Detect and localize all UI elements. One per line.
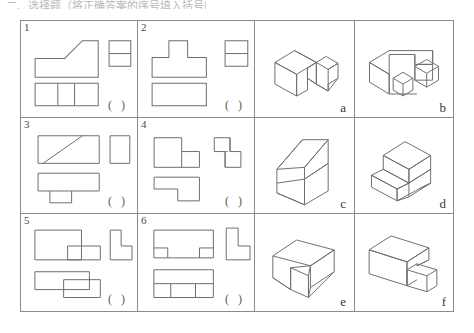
pictorial-cell-f[interactable]: f bbox=[355, 214, 454, 311]
projection-cell-5[interactable]: 5 ( ) bbox=[21, 214, 138, 311]
answer-blank-1[interactable]: ( ) bbox=[108, 98, 128, 113]
pictorial-cell-b[interactable]: b bbox=[355, 21, 454, 118]
pictorial-letter-a: a bbox=[340, 100, 346, 116]
projection-cell-4[interactable]: 4 ( ) bbox=[138, 118, 255, 215]
answer-blank-6[interactable]: ( ) bbox=[225, 292, 245, 307]
answer-blank-3[interactable]: ( ) bbox=[108, 194, 128, 209]
pictorial-letter-d: d bbox=[440, 196, 447, 212]
pictorial-cell-a[interactable]: a bbox=[255, 21, 355, 118]
top-instruction-text: 二、选择题（将正确答案的序号填入括号内） bbox=[6, 0, 206, 9]
exercise-table: 1 ( ) 2 ( ) bbox=[20, 20, 454, 312]
pictorial-cell-d[interactable]: d bbox=[355, 118, 454, 215]
answer-blank-4[interactable]: ( ) bbox=[225, 194, 245, 209]
isometric-object-a bbox=[255, 21, 354, 117]
pictorial-letter-e: e bbox=[340, 294, 346, 310]
projection-cell-1[interactable]: 1 ( ) bbox=[21, 21, 138, 118]
isometric-object-e bbox=[255, 214, 354, 311]
pictorial-letter-b: b bbox=[440, 100, 447, 116]
answer-blank-5[interactable]: ( ) bbox=[108, 292, 128, 307]
pictorial-letter-c: c bbox=[340, 196, 346, 212]
projection-cell-2[interactable]: 2 ( ) bbox=[138, 21, 255, 118]
isometric-object-c bbox=[255, 118, 354, 214]
pictorial-cell-c[interactable]: c bbox=[255, 118, 355, 215]
projection-cell-6[interactable]: 6 ( ) bbox=[138, 214, 255, 311]
pictorial-letter-f: f bbox=[442, 294, 446, 310]
answer-blank-2[interactable]: ( ) bbox=[225, 98, 245, 113]
pictorial-cell-e[interactable]: e bbox=[255, 214, 355, 311]
isometric-object-f bbox=[355, 214, 454, 311]
projection-cell-3[interactable]: 3 ( ) bbox=[21, 118, 138, 215]
